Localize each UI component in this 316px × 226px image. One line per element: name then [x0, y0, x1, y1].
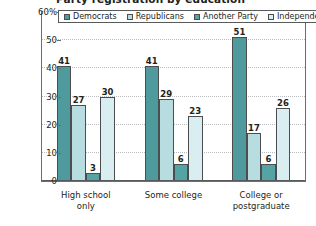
- bar-value-label: 41: [146, 56, 158, 66]
- y-axis-tick-mark: [57, 125, 61, 126]
- bar: 27: [71, 105, 86, 181]
- bar: 29: [159, 99, 174, 181]
- bar: 51: [232, 37, 247, 181]
- chart-title: Party registration by education: [56, 0, 245, 5]
- bar-value-label: 27: [73, 95, 85, 105]
- legend-item[interactable]: Democrats: [64, 12, 117, 21]
- bar-value-label: 51: [233, 27, 245, 37]
- y-axis-tick-label: 0: [23, 176, 57, 186]
- bar: 17: [247, 133, 262, 181]
- x-axis-line: [42, 180, 305, 181]
- y-axis-tick-label: 30: [23, 92, 57, 102]
- chart-legend: DemocratsRepublicansAnother PartyIndepen…: [58, 10, 316, 23]
- plot-area: 412733041296235117626: [41, 11, 306, 182]
- legend-swatch-icon: [64, 14, 70, 20]
- bar-value-label: 3: [90, 163, 96, 173]
- gridline: [42, 39, 305, 40]
- bar: 6: [261, 164, 276, 181]
- x-axis-category-label: High schoolonly: [61, 190, 111, 212]
- y-axis-tick-label: 50: [23, 35, 57, 45]
- x-axis-category-line: High school: [61, 190, 111, 201]
- legend-item[interactable]: Republicans: [127, 12, 184, 21]
- x-axis-category-label: College orpostgraduate: [233, 190, 290, 212]
- x-axis-category-line: Some college: [145, 190, 202, 201]
- bar-value-label: 30: [102, 87, 114, 97]
- bar: 41: [57, 66, 72, 181]
- bar-value-label: 17: [248, 123, 260, 133]
- legend-swatch-icon: [127, 14, 133, 20]
- legend-label: Republicans: [136, 12, 184, 21]
- gridline: [42, 67, 305, 68]
- legend-label: Democrats: [73, 12, 117, 21]
- bar: 30: [100, 97, 115, 182]
- x-axis-category-label: Some college: [145, 190, 202, 201]
- legend-label: Another Party: [203, 12, 258, 21]
- bar-value-label: 6: [178, 154, 184, 164]
- bar-value-label: 26: [277, 98, 289, 108]
- x-axis-category-line: College or: [233, 190, 290, 201]
- bar-value-label: 41: [58, 56, 70, 66]
- y-axis-tick-mark: [57, 68, 61, 69]
- y-axis-tick-mark: [57, 40, 61, 41]
- y-axis-tick-label: 20: [23, 120, 57, 130]
- plot-inner: 412733041296235117626: [42, 11, 305, 181]
- legend-label: Independents: [277, 12, 316, 21]
- legend-item[interactable]: Another Party: [194, 12, 258, 21]
- legend-swatch-icon: [194, 14, 200, 20]
- bar: 26: [276, 108, 291, 181]
- x-axis-category-line: only: [61, 201, 111, 212]
- bar-value-label: 6: [265, 154, 271, 164]
- bar: 41: [145, 66, 160, 181]
- y-axis-tick-mark: [57, 153, 61, 154]
- bar: 23: [188, 116, 203, 181]
- y-axis-tick-label: 40: [23, 63, 57, 73]
- y-axis-tick-mark: [57, 181, 61, 182]
- legend-item[interactable]: Independents: [268, 12, 316, 21]
- y-axis-tick-label: 10: [23, 148, 57, 158]
- bar-value-label: 29: [160, 89, 172, 99]
- legend-swatch-icon: [268, 14, 274, 20]
- y-axis-tick-mark: [57, 97, 61, 98]
- bar-value-label: 23: [189, 106, 201, 116]
- x-axis-category-line: postgraduate: [233, 201, 290, 212]
- bar: 6: [174, 164, 189, 181]
- chart-root: Party registration by education 41273304…: [0, 0, 316, 226]
- y-axis-tick-label: 60%: [23, 7, 57, 17]
